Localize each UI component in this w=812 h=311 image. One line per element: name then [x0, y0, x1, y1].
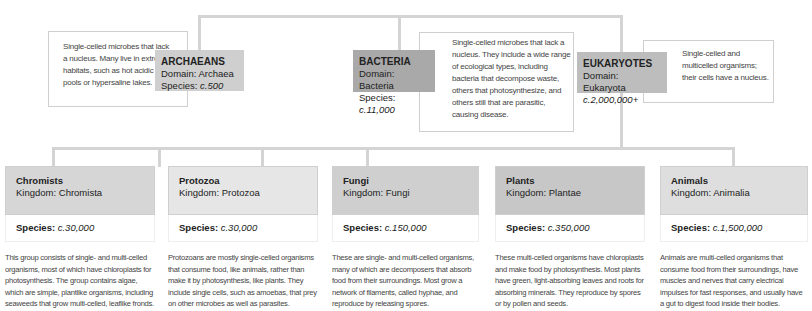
bacteria-description-box: Single-celled microbes that lack a nucle…: [419, 32, 574, 132]
kingdom-label: Kingdom: Chromista: [16, 187, 144, 199]
connector-protozoa: [158, 147, 161, 167]
kingdom-species: Species: c.30,000: [5, 215, 155, 242]
kingdom-description: This group consists of single- and multi…: [5, 252, 155, 310]
connector-kingdoms-horizontal-right: [52, 147, 735, 150]
species-label: Species:: [16, 222, 55, 233]
archaea-species-value: c.500: [200, 80, 223, 91]
bacteria-description: Single-celled microbes that lack a nucle…: [452, 38, 570, 119]
kingdom-header: Animals Kingdom: Animalia: [660, 166, 808, 215]
archaea-name: ARCHAEANS: [161, 56, 238, 68]
bacteria-domain-box: BACTERIA Domain: Bacteria Species: c.11,…: [353, 50, 435, 92]
archaea-description: Single-celled microbes that lack a nucle…: [63, 42, 169, 87]
archaea-domain-label: Domain: Archaea: [161, 68, 238, 80]
kingdom-protozoa: Protozoa Kingdom: Protozoa Species: c.30…: [168, 166, 318, 310]
kingdom-header: Chromists Kingdom: Chromista: [5, 166, 155, 215]
species-value: c.350,000: [548, 222, 590, 233]
eukaryotes-description: Single-celled and multicelled organisms;…: [682, 49, 769, 82]
bacteria-species-label: Species:: [359, 92, 395, 103]
species-value: c.30,000: [58, 222, 94, 233]
kingdom-name: Fungi: [343, 175, 468, 187]
kingdom-name: Animals: [671, 175, 797, 187]
eukaryotes-species-value: c.2,000,000+: [583, 94, 661, 106]
species-value: c.30,000: [221, 222, 257, 233]
kingdom-species: Species: c.1,500,000: [660, 215, 808, 242]
bacteria-species-value: c.11,000: [359, 104, 395, 115]
connector-fungi: [261, 147, 264, 167]
species-value: c.1,500,000: [713, 222, 763, 233]
connector-plants: [366, 147, 369, 167]
kingdom-species: Species: c.30,000: [168, 215, 318, 242]
eukaryotes-domain-label: Domain: Eukaryota: [583, 70, 661, 94]
species-label: Species:: [343, 222, 382, 233]
archaea-species-label: Species:: [161, 80, 197, 91]
kingdom-header: Plants Kingdom: Plantae: [495, 166, 645, 215]
kingdom-description: Animals are multi-celled organisms that …: [660, 252, 808, 310]
connector-chromists: [52, 147, 55, 167]
connector-bacteria-vertical: [398, 15, 401, 50]
kingdom-description: Protozoans are mostly single-celled orga…: [168, 252, 318, 310]
kingdom-animals: Animals Kingdom: Animalia Species: c.1,5…: [660, 166, 808, 310]
kingdom-label: Kingdom: Animalia: [671, 187, 797, 199]
connector-archaea-vertical: [198, 15, 201, 50]
kingdom-label: Kingdom: Plantae: [506, 187, 634, 199]
kingdom-fungi: Fungi Kingdom: Fungi Species: c.150,000 …: [332, 166, 479, 310]
species-label: Species:: [506, 222, 545, 233]
kingdom-label: Kingdom: Fungi: [343, 187, 468, 199]
kingdom-description: These are single- and multi-celled organ…: [332, 252, 479, 310]
kingdom-chromists: Chromists Kingdom: Chromista Species: c.…: [5, 166, 155, 310]
bacteria-domain-label: Domain: Bacteria: [359, 68, 429, 92]
species-value: c.150,000: [385, 222, 427, 233]
kingdom-plants: Plants Kingdom: Plantae Species: c.350,0…: [495, 166, 645, 310]
connector-top: [198, 15, 623, 18]
connector-animals: [732, 147, 735, 167]
archaea-domain-box: ARCHAEANS Domain: Archaea Species: c.500: [155, 50, 244, 91]
species-label: Species:: [179, 222, 218, 233]
kingdom-header: Protozoa Kingdom: Protozoa: [168, 166, 318, 215]
bacteria-name: BACTERIA: [359, 56, 429, 68]
kingdom-description: These multi-celled organisms have chloro…: [495, 252, 645, 310]
kingdom-header: Fungi Kingdom: Fungi: [332, 166, 479, 215]
kingdom-name: Protozoa: [179, 175, 307, 187]
kingdom-name: Chromists: [16, 175, 144, 187]
kingdom-species: Species: c.150,000: [332, 215, 479, 242]
kingdom-species: Species: c.350,000: [495, 215, 645, 242]
kingdom-name: Plants: [506, 175, 634, 187]
kingdom-label: Kingdom: Protozoa: [179, 187, 307, 199]
species-label: Species:: [671, 222, 710, 233]
eukaryotes-name: EUKARYOTES: [583, 58, 661, 70]
eukaryotes-domain-box: EUKARYOTES Domain: Eukaryota c.2,000,000…: [577, 52, 667, 93]
